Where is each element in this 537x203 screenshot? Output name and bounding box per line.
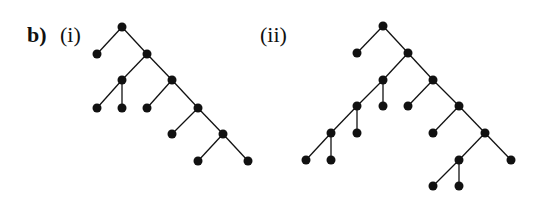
tree-node <box>379 102 388 111</box>
tree-node <box>244 157 253 166</box>
tree-edge <box>357 26 383 53</box>
tree-node <box>302 156 311 165</box>
tree-edge <box>172 108 198 134</box>
tree-node <box>429 76 438 85</box>
tree-node <box>118 104 127 113</box>
tree-node <box>194 104 203 113</box>
tree-edge <box>408 53 433 80</box>
tree-edge <box>485 133 511 160</box>
tree-node <box>168 130 177 139</box>
tree-node <box>143 50 152 59</box>
tree-node <box>429 129 438 138</box>
tree-node <box>353 102 362 111</box>
tree-edge <box>198 108 223 134</box>
tree-node <box>93 50 102 59</box>
tree-node <box>353 49 362 58</box>
tree-node <box>327 129 336 138</box>
tree-node <box>118 76 127 85</box>
tree-edge <box>408 80 433 106</box>
tree-node <box>507 156 516 165</box>
tree-edge <box>433 160 459 186</box>
tree-node <box>455 102 464 111</box>
tree-node <box>93 104 102 113</box>
tree-node <box>379 76 388 85</box>
tree-edge <box>459 106 485 133</box>
tree-node <box>481 129 490 138</box>
tree-node <box>194 157 203 166</box>
tree-edge <box>97 80 122 108</box>
tree-diagram <box>0 0 537 203</box>
tree-edge <box>331 106 357 133</box>
tree-node <box>404 49 413 58</box>
tree-edge <box>147 54 172 80</box>
tree-node <box>219 130 228 139</box>
tree-node <box>353 129 362 138</box>
tree-node <box>404 102 413 111</box>
tree-edge <box>433 80 459 106</box>
tree-edge <box>223 134 248 161</box>
tree-node <box>327 156 336 165</box>
tree-node <box>455 156 464 165</box>
tree-edge <box>122 27 147 54</box>
tree-edge <box>97 27 122 54</box>
tree-node <box>168 76 177 85</box>
tree-edge <box>357 80 383 106</box>
tree-edge <box>147 80 172 108</box>
tree-edge <box>198 134 223 161</box>
tree-edge <box>433 106 459 133</box>
tree-node <box>379 22 388 31</box>
tree-ii <box>302 22 516 191</box>
tree-edge <box>383 53 408 80</box>
tree-node <box>118 23 127 32</box>
tree-edge <box>172 80 198 108</box>
tree-edge <box>383 26 408 53</box>
tree-edge <box>122 54 147 80</box>
tree-node <box>455 182 464 191</box>
tree-edge <box>459 133 485 160</box>
tree-edge <box>306 133 331 160</box>
tree-node <box>143 104 152 113</box>
tree-i <box>93 23 253 166</box>
tree-node <box>429 182 438 191</box>
